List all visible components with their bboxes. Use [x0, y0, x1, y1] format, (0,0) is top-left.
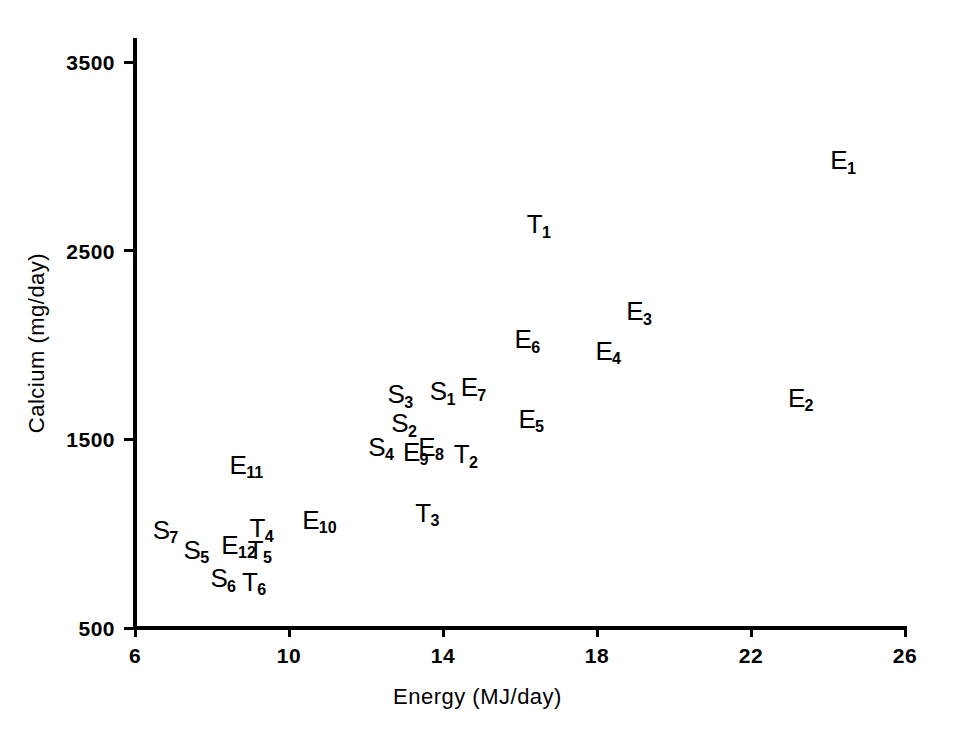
data-point-subscript: 4 [612, 349, 621, 367]
data-point-subscript: 5 [263, 548, 272, 566]
data-point-subscript: 7 [169, 528, 178, 546]
data-point-e10: E10 [302, 507, 337, 533]
data-point-base: E [221, 530, 238, 560]
data-point-subscript: 3 [430, 511, 439, 529]
data-point-e1: E1 [830, 147, 856, 173]
data-point-base: S [368, 432, 385, 462]
data-point-subscript: 6 [227, 577, 236, 595]
data-point-base: S [153, 515, 170, 545]
data-point-e4: E4 [595, 338, 621, 364]
data-point-base: E [403, 437, 420, 467]
x-axis-tick-label: 18 [557, 645, 637, 666]
y-axis-tick [124, 61, 135, 64]
data-point-s2: S2 [391, 410, 417, 436]
data-point-t1: T1 [527, 211, 552, 237]
y-axis-tick [124, 249, 135, 252]
data-point-t5: T5 [248, 537, 273, 563]
data-point-subscript: 6 [531, 338, 540, 356]
data-point-base: E [518, 404, 535, 434]
data-point-base: T [248, 535, 264, 565]
x-axis-tick-label: 26 [865, 645, 945, 666]
data-point-e6: E6 [515, 326, 541, 352]
data-point-subscript: 3 [643, 310, 652, 328]
scatter-plot-figure: 350025001500500 61014182226 Calcium (mg/… [0, 0, 955, 736]
data-point-subscript: 1 [847, 159, 856, 177]
data-point-e2: E2 [788, 385, 814, 411]
y-axis-tick-label: 2500 [5, 241, 115, 262]
data-point-base: S [183, 535, 200, 565]
data-point-e9: E9 [403, 439, 429, 465]
x-axis-tick-label: 22 [711, 645, 791, 666]
data-point-subscript: 4 [385, 445, 394, 463]
data-point-base: E [788, 383, 805, 413]
y-axis-title: Calcium (mg/day) [24, 163, 50, 523]
data-point-base: E [461, 372, 478, 402]
x-axis-tick-label: 6 [95, 645, 175, 666]
data-point-subscript: 2 [805, 396, 814, 414]
data-point-subscript: 5 [535, 417, 544, 435]
data-point-e7: E7 [461, 374, 487, 400]
data-point-s4: S4 [368, 434, 394, 460]
data-point-subscript: 8 [435, 445, 444, 463]
data-point-subscript: 3 [404, 393, 413, 411]
data-point-base: E [229, 450, 246, 480]
data-point-t6: T6 [242, 569, 267, 595]
data-point-base: S [430, 376, 447, 406]
data-point-base: E [830, 145, 847, 175]
data-point-base: E [595, 336, 612, 366]
data-point-subscript: 11 [246, 463, 263, 481]
data-point-s1: S1 [430, 378, 456, 404]
data-point-base: T [242, 567, 258, 597]
y-axis-tick-label: 500 [5, 618, 115, 639]
data-point-e5: E5 [518, 406, 544, 432]
data-point-base: E [515, 324, 532, 354]
data-point-subscript: 9 [420, 450, 429, 468]
x-axis-title: Energy (MJ/day) [0, 684, 955, 710]
data-point-subscript: 10 [319, 518, 337, 536]
data-point-subscript: 7 [477, 386, 486, 404]
data-point-subscript: 6 [257, 580, 266, 598]
data-point-subscript: 5 [200, 548, 209, 566]
data-point-subscript: 1 [542, 223, 551, 241]
data-point-subscript: 2 [469, 453, 478, 471]
data-point-base: S [210, 563, 227, 593]
data-point-t2: T2 [454, 441, 479, 467]
data-point-base: T [415, 498, 431, 528]
data-point-base: T [454, 439, 470, 469]
data-point-s5: S5 [183, 537, 209, 563]
data-point-base: E [626, 296, 643, 326]
x-axis-tick-label: 10 [249, 645, 329, 666]
data-point-base: S [387, 379, 404, 409]
x-axis-tick-label: 14 [403, 645, 483, 666]
data-point-subscript: 2 [408, 422, 417, 440]
data-point-s7: S7 [153, 517, 179, 543]
y-axis-tick-label: 3500 [5, 52, 115, 73]
data-point-subscript: 1 [447, 390, 456, 408]
data-point-e11: E11 [229, 452, 263, 478]
data-point-e3: E3 [626, 298, 652, 324]
data-point-s6: S6 [210, 565, 236, 591]
data-point-s3: S3 [387, 381, 413, 407]
data-point-base: T [527, 209, 543, 239]
y-axis-tick-label: 1500 [5, 429, 115, 450]
y-axis-tick [124, 438, 135, 441]
data-point-t3: T3 [415, 500, 440, 526]
data-point-base: E [302, 505, 319, 535]
